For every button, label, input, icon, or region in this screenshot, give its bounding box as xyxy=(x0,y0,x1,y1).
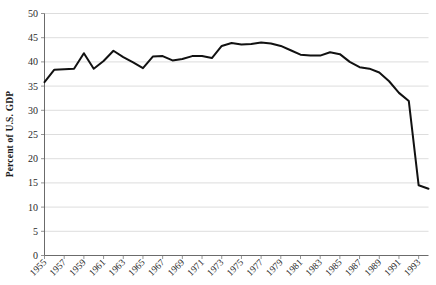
y-tick-label: 20 xyxy=(28,153,38,164)
y-tick-label: 45 xyxy=(28,32,38,43)
y-tick-label: 25 xyxy=(28,129,38,140)
y-tick-label: 15 xyxy=(28,177,38,188)
y-tick-label: 40 xyxy=(28,56,38,67)
y-tick-label: 0 xyxy=(33,250,38,261)
y-tick-label: 50 xyxy=(28,8,38,19)
y-tick-label: 35 xyxy=(28,81,38,92)
y-tick-label: 5 xyxy=(33,226,38,237)
chart-container: 05101520253035404550 1955195719591961196… xyxy=(0,0,436,285)
y-axis-title: Percent of U.S. GDP xyxy=(5,91,15,178)
line-chart: 05101520253035404550 1955195719591961196… xyxy=(0,0,436,285)
chart-background xyxy=(0,0,436,285)
y-tick-label: 30 xyxy=(28,105,38,116)
y-tick-label: 10 xyxy=(28,202,38,213)
